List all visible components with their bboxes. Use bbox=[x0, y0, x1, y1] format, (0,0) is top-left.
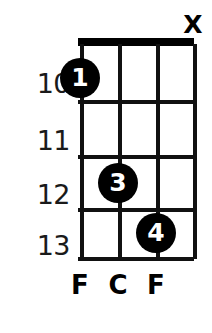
muted-string-x-icon: X bbox=[180, 12, 206, 37]
fret-line bbox=[78, 100, 194, 104]
note-label-F: F bbox=[139, 272, 173, 298]
nut bbox=[78, 38, 194, 46]
fret-number-11: 11 bbox=[12, 127, 70, 154]
fret-number-12: 12 bbox=[12, 181, 70, 208]
finger-dot-1: 1 bbox=[60, 58, 100, 98]
finger-dot-4: 4 bbox=[136, 213, 176, 253]
fret-line bbox=[78, 257, 194, 261]
string-line-2 bbox=[118, 44, 122, 259]
finger-dot-3: 3 bbox=[98, 163, 138, 203]
fret-number-column: 10111213 bbox=[6, 0, 70, 333]
fret-line bbox=[78, 155, 194, 159]
note-label-C: C bbox=[101, 272, 135, 298]
fret-line bbox=[78, 208, 194, 212]
note-label-F: F bbox=[63, 272, 97, 298]
chord-diagram: X 10111213 134 FCF bbox=[0, 0, 212, 333]
fret-number-13: 13 bbox=[12, 232, 70, 259]
string-line-4 bbox=[193, 44, 197, 259]
